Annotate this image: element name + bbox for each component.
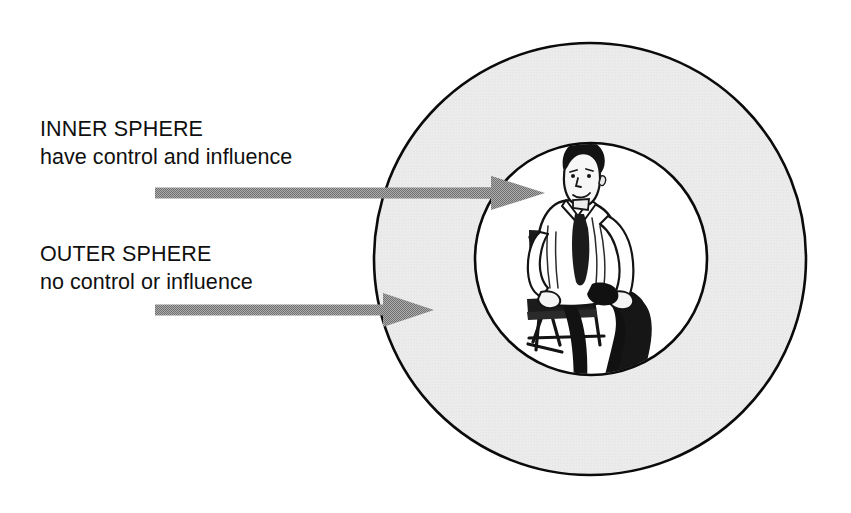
label-outer-sphere-subtitle: no control or influence bbox=[40, 269, 253, 297]
diagram-canvas: INNER SPHERE have control and influence … bbox=[0, 0, 851, 513]
hand-left bbox=[538, 291, 560, 308]
label-inner-sphere: INNER SPHERE have control and influence bbox=[40, 116, 292, 172]
label-inner-sphere-subtitle: have control and influence bbox=[40, 144, 292, 172]
necktie bbox=[572, 214, 589, 285]
arrow-outer-sphere bbox=[155, 293, 434, 327]
label-inner-sphere-title: INNER SPHERE bbox=[40, 116, 292, 144]
neck bbox=[573, 199, 589, 210]
label-outer-sphere: OUTER SPHERE no control or influence bbox=[40, 241, 253, 297]
label-outer-sphere-title: OUTER SPHERE bbox=[40, 241, 253, 269]
